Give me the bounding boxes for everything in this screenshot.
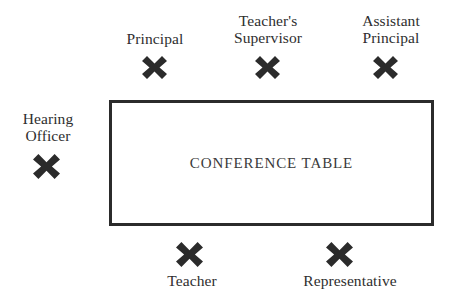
seat-marker-hearing-officer-x-icon: [33, 154, 60, 179]
seat-label-assistant-principal: Assistant Principal: [336, 12, 446, 46]
seating-diagram: Principal Teacher's Supervisor Assistant…: [0, 0, 457, 307]
seat-marker-teachers-supervisor-x-icon: [255, 56, 280, 79]
seat-marker-assistant-principal-x-icon: [373, 56, 398, 79]
seat-label-teachers-supervisor: Teacher's Supervisor: [212, 12, 324, 46]
seat-label-hearing-officer: Hearing Officer: [2, 110, 94, 144]
conference-table-label: CONFERENCE TABLE: [112, 155, 431, 172]
seat-marker-representative-x-icon: [326, 242, 353, 267]
conference-table: CONFERENCE TABLE: [109, 100, 434, 226]
seat-marker-principal-x-icon: [142, 56, 167, 79]
seat-marker-teacher-x-icon: [176, 242, 203, 267]
seat-label-representative: Representative: [280, 272, 420, 289]
seat-label-teacher: Teacher: [137, 272, 247, 289]
seat-label-principal: Principal: [102, 30, 208, 47]
